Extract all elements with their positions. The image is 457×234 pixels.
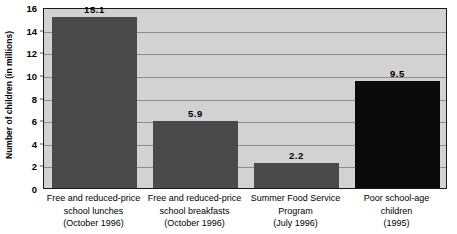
bar-value-label: 15.1 xyxy=(52,4,137,15)
y-tick-label: 0 xyxy=(32,184,37,195)
bar-value-label: 9.5 xyxy=(355,68,440,79)
bar-chart-figure: Number of children (in millions) 1614121… xyxy=(0,0,457,234)
x-category-label-line: (October 1996) xyxy=(43,217,144,230)
x-category-label-line: Free and reduced-price xyxy=(43,192,144,205)
y-axis-tick-labels: 1614121086420 xyxy=(20,0,40,190)
y-tick-label: 4 xyxy=(32,138,37,149)
x-category-label: Free and reduced-priceschool breakfasts(… xyxy=(144,192,245,230)
x-category-label: Free and reduced-priceschool lunches(Oct… xyxy=(43,192,144,230)
x-category-label-line: Program xyxy=(245,205,346,218)
y-axis-title-text: Number of children (in millions) xyxy=(4,31,14,159)
bar[interactable] xyxy=(52,17,137,188)
bar-series: 15.15.92.29.5 xyxy=(44,9,446,188)
y-tick-label: 10 xyxy=(26,70,37,81)
x-axis-category-labels: Free and reduced-priceschool lunches(Oct… xyxy=(43,192,447,234)
x-category-label-line: (October 1996) xyxy=(144,217,245,230)
y-tick-label: 2 xyxy=(32,161,37,172)
x-category-label-line: (July 1996) xyxy=(245,217,346,230)
y-tick-label: 8 xyxy=(32,93,37,104)
bar-group[interactable]: 5.9 xyxy=(153,7,238,188)
y-tick-label: 16 xyxy=(26,3,37,14)
x-category-label: Summer Food ServiceProgram(July 1996) xyxy=(245,192,346,230)
x-category-label-line: school lunches xyxy=(43,205,144,218)
bar[interactable] xyxy=(254,163,339,188)
plot-area: 15.15.92.29.5 xyxy=(43,8,447,189)
x-category-label-line: Poor school-age xyxy=(346,192,447,205)
x-category-label-line: Summer Food Service xyxy=(245,192,346,205)
bar[interactable] xyxy=(355,81,440,188)
bar-group[interactable]: 9.5 xyxy=(355,7,440,188)
bar-value-label: 2.2 xyxy=(254,150,339,161)
x-category-label-line: school breakfasts xyxy=(144,205,245,218)
y-tick-label: 12 xyxy=(26,48,37,59)
y-tick-label: 6 xyxy=(32,116,37,127)
bar-group[interactable]: 15.1 xyxy=(52,7,137,188)
bar-value-label: 5.9 xyxy=(153,108,238,119)
y-axis-title: Number of children (in millions) xyxy=(0,0,18,190)
bar[interactable] xyxy=(153,121,238,188)
bar-group[interactable]: 2.2 xyxy=(254,7,339,188)
x-category-label-line: (1995) xyxy=(346,217,447,230)
x-category-label: Poor school-agechildren(1995) xyxy=(346,192,447,230)
x-category-label-line: children xyxy=(346,205,447,218)
x-category-label-line: Free and reduced-price xyxy=(144,192,245,205)
y-tick-label: 14 xyxy=(26,25,37,36)
